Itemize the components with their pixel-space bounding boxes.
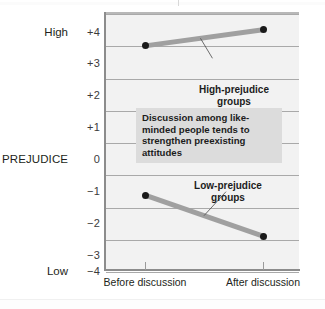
series-label-high-prejudice: High-prejudice groups — [186, 84, 282, 107]
gridline--4 — [106, 272, 299, 273]
series-label-low-prejudice-line2: groups — [180, 192, 276, 204]
x-tick-label-after: After discussion — [225, 276, 301, 288]
y-tick-label-4: +4 — [74, 26, 100, 38]
y-tick-label-2: +2 — [74, 89, 100, 101]
page-artifact-tick — [178, 0, 179, 6]
gridline-2 — [106, 79, 299, 80]
series-label-high-prejudice-line2: groups — [186, 96, 282, 108]
data-point-high-after — [260, 26, 267, 33]
x-axis-tick-after — [263, 262, 264, 270]
y-tick-3: +3 — [70, 57, 100, 69]
series-label-low-prejudice: Low-prejudice groups — [180, 180, 276, 203]
y-tick-label-3: +3 — [74, 57, 100, 69]
y-tick-4: +4 — [70, 26, 100, 38]
gridline-4 — [106, 14, 299, 15]
y-axis-low-label: Low — [8, 265, 68, 277]
x-tick-label-before: Before discussion — [102, 276, 188, 288]
series-label-high-prejudice-line1: High-prejudice — [186, 84, 282, 96]
y-tick-label-neg1: −1 — [74, 185, 100, 197]
gridline--1 — [106, 175, 299, 176]
annotation-callout-box: Discussion among like-minded people tend… — [136, 108, 282, 163]
page-artifact-bottom — [0, 299, 325, 309]
data-point-low-before — [142, 192, 149, 199]
y-tick-label-0: 0 — [74, 153, 100, 165]
y-tick-2: +2 — [70, 89, 100, 101]
y-tick-neg3: −3 — [70, 249, 100, 261]
gridline-3 — [106, 46, 299, 47]
y-tick-label-neg3: −3 — [74, 249, 100, 261]
data-point-high-before — [142, 42, 149, 49]
page-artifact-top — [0, 2, 325, 5]
x-axis-line — [104, 269, 300, 271]
data-point-low-after — [260, 233, 267, 240]
y-axis-high-label: High — [8, 26, 68, 38]
x-axis-tick-before — [145, 262, 146, 270]
series-label-low-prejudice-line1: Low-prejudice — [180, 180, 276, 192]
y-tick-1: +1 — [70, 121, 100, 133]
y-tick-label-neg4: −4 — [74, 265, 100, 277]
y-tick-neg1: −1 — [70, 185, 100, 197]
y-axis-title: PREJUDICE — [2, 153, 68, 165]
y-tick-0: 0 — [70, 153, 100, 165]
y-tick-neg2: −2 — [70, 217, 100, 229]
y-tick-label-1: +1 — [74, 121, 100, 133]
y-tick-label-neg2: −2 — [74, 217, 100, 229]
gridline--3 — [106, 240, 299, 241]
y-tick-neg4: −4 — [70, 265, 100, 277]
y-axis-line — [104, 12, 106, 271]
gridline--2 — [106, 208, 299, 209]
